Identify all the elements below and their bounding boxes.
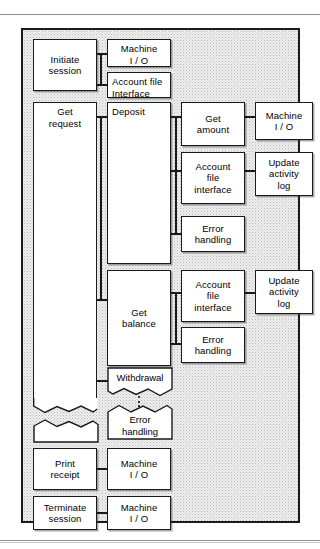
connector-print-receipt-to-machine-io [97,468,108,470]
module-account-file-interface-2[interactable]: Account file interface [181,152,245,204]
connector-initiate-vertical [100,53,102,85]
module-terminate-session[interactable]: Terminate session [33,496,97,530]
module-get-amount[interactable]: Get amount [181,102,245,146]
connector-get-request-to-get-balance [97,299,108,301]
module-error-handling-3-label: Error handling [107,414,173,437]
module-update-activity-log-2[interactable]: Update activity log [255,270,313,314]
connector-initiate-to-machine-io [97,53,108,55]
module-withdrawal-label: Withdrawal [107,372,173,384]
module-error-handling-1[interactable]: Error handling [181,216,245,252]
get-request-torn-edge [33,398,99,414]
connector-account-file-to-update-log-1 [244,170,256,172]
module-deposit[interactable]: Deposit [107,102,171,264]
module-machine-io-3[interactable]: Machine I / O [107,448,171,490]
connector-initiate-to-account-file [97,84,108,86]
connector-account-file-to-update-log-2 [244,292,256,294]
module-withdrawal[interactable]: Withdrawal [107,367,173,397]
module-get-request[interactable]: Get request [33,102,97,406]
module-machine-io-1[interactable]: Machine I / O [107,39,171,67]
connector-deposit-spine [175,116,177,234]
connector-get-balance-spine [175,292,177,344]
module-account-file-interface-1[interactable]: Account file Interface [107,72,171,98]
module-machine-io-2[interactable]: Machine I / O [255,102,313,140]
module-update-activity-log-1[interactable]: Update activity log [255,152,313,196]
page-bottom-rule [0,540,320,541]
module-machine-io-4[interactable]: Machine I / O [107,496,171,530]
page-top-rule [0,14,320,15]
connector-terminate-session-to-machine-io [97,512,108,514]
module-account-file-interface-3[interactable]: Account file interface [181,270,245,322]
structure-chart-frame: Initiate session Machine I / O Account f… [21,28,300,523]
module-error-handling-3[interactable]: Error handling [107,402,173,440]
module-initiate-session[interactable]: Initiate session [33,39,97,91]
module-print-receipt[interactable]: Print receipt [33,448,97,490]
module-elided-sibling[interactable] [33,417,99,443]
connector-get-request-to-deposit [97,116,108,118]
connector-get-amount-to-machine-io [244,116,256,118]
connector-get-request-to-get-balance-vertical [100,116,102,300]
page-bottom-rule-secondary [0,542,320,543]
module-error-handling-2[interactable]: Error handling [181,327,245,363]
module-get-balance[interactable]: Get balance [107,270,171,366]
